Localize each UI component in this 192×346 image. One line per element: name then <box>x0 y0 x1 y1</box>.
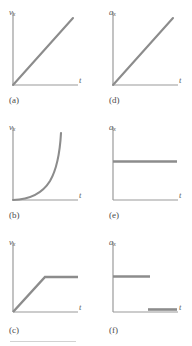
y-axis-label: ax <box>109 123 116 133</box>
panel-b: vx t (b) <box>0 115 96 230</box>
x-axis-label: t <box>179 76 181 85</box>
data-curve <box>113 18 173 85</box>
panel-caption: (e) <box>109 211 119 220</box>
y-axis-label: vx <box>9 123 15 133</box>
panel-caption: (c) <box>9 326 19 335</box>
y-axis-label: ax <box>109 238 116 248</box>
data-curve <box>13 133 61 200</box>
x-axis-label: t <box>179 191 181 200</box>
x-axis-label: t <box>79 76 81 85</box>
y-axis-label: ax <box>109 8 116 18</box>
data-curve <box>13 18 73 85</box>
bottom-divider-rule <box>10 341 76 342</box>
panel-a: vx t (a) <box>0 0 96 115</box>
x-axis-label: t <box>179 303 181 312</box>
y-axis-label: vx <box>9 8 15 18</box>
panel-f: ax t (f) <box>96 230 192 345</box>
panel-caption: (f) <box>109 326 118 335</box>
y-axis-label: vx <box>9 238 15 248</box>
data-curve <box>13 277 78 312</box>
panel-caption: (b) <box>9 211 20 220</box>
x-axis-label: t <box>79 303 81 312</box>
panel-c: vx t (c) <box>0 230 96 345</box>
figure-root: vx t (a) ax t (d) vx t (b) <box>0 0 192 346</box>
panel-caption: (d) <box>109 96 120 105</box>
panel-e: ax t (e) <box>96 115 192 230</box>
x-axis-label: t <box>79 191 81 200</box>
panel-d: ax t (d) <box>96 0 192 115</box>
panel-caption: (a) <box>9 96 19 105</box>
